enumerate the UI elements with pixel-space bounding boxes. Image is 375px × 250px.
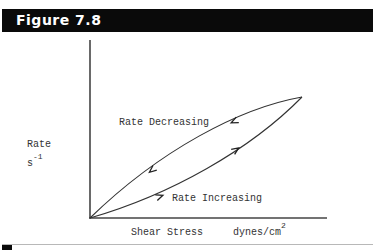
rate-increasing-label: Rate Increasing [172, 193, 262, 204]
arrow-decreasing-lower-icon [148, 166, 157, 175]
x-axis-unit: dynes/cm2 [233, 221, 286, 238]
footer-corner-mark [2, 245, 12, 250]
y-axis-label: Rate [27, 139, 51, 150]
bottom-divider [2, 244, 373, 245]
rate-decreasing-label: Rate Decreasing [119, 117, 209, 128]
y-axis-unit: s-1 [27, 152, 43, 169]
hysteresis-loop-diagram: Rate Decreasing Rate Increasing Rate s-1… [0, 0, 375, 250]
x-axis-label: Shear Stress [131, 227, 203, 238]
arrow-decreasing-upper-icon [230, 117, 239, 125]
